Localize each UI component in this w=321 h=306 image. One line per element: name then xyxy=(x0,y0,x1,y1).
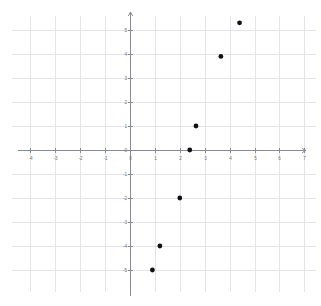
y-tick-label: 2 xyxy=(124,100,127,105)
y-tick-label: -4 xyxy=(123,244,128,249)
data-point: (4.4, 5.3) xyxy=(237,20,242,25)
x-tick-label: -1 xyxy=(103,156,108,161)
data-point: (1.2, -4) xyxy=(157,244,162,249)
x-tick-label: 1 xyxy=(154,156,157,161)
x-tick-label: 5 xyxy=(254,156,257,161)
y-tick-label: 3 xyxy=(124,76,127,81)
x-tick-label: 7 xyxy=(303,156,306,161)
grid-layer xyxy=(12,16,316,292)
y-tick-label: 1 xyxy=(124,124,127,129)
y-tick-label: 0 xyxy=(124,148,127,153)
data-point: (3.65, 3.9) xyxy=(218,54,223,59)
x-tick-label: -4 xyxy=(28,156,33,161)
y-tick-label: -1 xyxy=(123,172,128,177)
scatter-plot-figure: -4-3-2-101234567 -5-4-3-2-1012345 (0.9, … xyxy=(0,0,321,306)
data-point: (2.65, 1) xyxy=(194,124,199,129)
x-tick-label: 4 xyxy=(229,156,232,161)
x-tick-label: 2 xyxy=(179,156,182,161)
x-tick-label: 0 xyxy=(129,156,132,161)
data-point: (2.4, 0) xyxy=(187,148,192,153)
y-tick-label: -5 xyxy=(123,268,128,273)
data-point: (2, -2) xyxy=(177,196,182,201)
data-point: (0.9, -5) xyxy=(150,268,155,273)
x-tick-label: -2 xyxy=(78,156,83,161)
x-tick-label: 3 xyxy=(204,156,207,161)
x-tick-label: 6 xyxy=(278,156,281,161)
data-points-layer: (0.9, -5)(1.2, -4)(2, -2)(2.4, 0)(2.65, … xyxy=(150,20,242,272)
y-tick-label: 5 xyxy=(124,28,127,33)
x-axis-tick-labels: -4-3-2-101234567 xyxy=(28,156,306,161)
coordinate-plane-svg: -4-3-2-101234567 -5-4-3-2-1012345 (0.9, … xyxy=(0,0,321,306)
y-axis-tick-labels: -5-4-3-2-1012345 xyxy=(123,28,128,273)
y-tick-label: 4 xyxy=(124,52,127,57)
y-tick-label: -2 xyxy=(123,196,128,201)
x-tick-label: -3 xyxy=(53,156,58,161)
y-tick-label: -3 xyxy=(123,220,128,225)
